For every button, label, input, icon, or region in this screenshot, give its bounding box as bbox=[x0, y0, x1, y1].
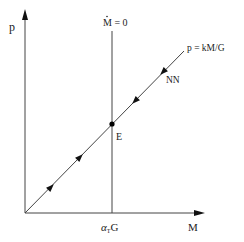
svg-text:M = 0: M = 0 bbox=[103, 17, 128, 28]
y-axis-arrow-icon bbox=[22, 9, 28, 20]
x-axis-label: M bbox=[188, 221, 198, 233]
x-axis-arrow-icon bbox=[194, 210, 205, 216]
equilibrium-point bbox=[109, 121, 114, 126]
m-dot-zero-label: M = 0 bbox=[103, 16, 128, 28]
alpha-t-g-label: αTG bbox=[101, 221, 118, 234]
equilibrium-label: E bbox=[116, 131, 122, 142]
nn-label: NN bbox=[166, 75, 180, 85]
y-axis-label: p bbox=[9, 20, 15, 34]
phase-diagram: p M M = 0 αTG p = kM/G NN E bbox=[0, 0, 244, 242]
pkmg-label: p = kM/G bbox=[187, 43, 225, 53]
